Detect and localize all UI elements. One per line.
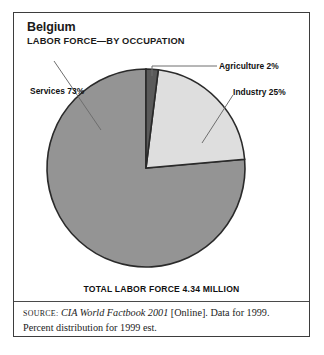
pie-chart-svg xyxy=(14,47,308,285)
total-labor-force-caption: TOTAL LABOR FORCE 4.34 MILLION xyxy=(14,285,309,294)
figure-panel: Belgium LABOR FORCE—BY OCCUPATION Servic… xyxy=(13,12,310,337)
figure-subtitle: LABOR FORCE—BY OCCUPATION xyxy=(27,37,185,46)
source-detail: [Online]. Data for 1999. xyxy=(171,307,270,318)
source-note: SOURCE: CIA World Factbook 2001 [Online]… xyxy=(23,306,301,334)
pie-chart: Services 73% Agriculture 2% Industry 25% xyxy=(14,47,308,285)
slice-label-agriculture: Agriculture 2% xyxy=(219,62,279,70)
page-title: Belgium xyxy=(27,21,76,34)
source-keyword: SOURCE: xyxy=(23,309,58,318)
footer-divider xyxy=(14,301,309,302)
slice-label-industry: Industry 25% xyxy=(233,88,286,96)
slice-label-services: Services 73% xyxy=(30,87,84,95)
pie-slice-industry[interactable] xyxy=(146,70,245,168)
source-note-line2: Percent distribution for 1999 est. xyxy=(23,322,157,333)
source-publication: CIA World Factbook 2001 xyxy=(61,307,168,318)
